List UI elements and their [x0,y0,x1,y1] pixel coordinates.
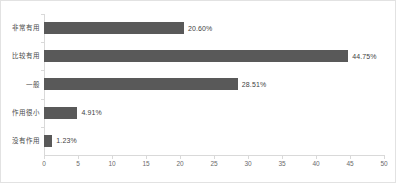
x-axis-tick-label: 0 [42,161,46,168]
bar [44,135,52,147]
category-label: 一般 [3,81,40,88]
x-axis-ticks: 05101520253035404550 [44,156,385,182]
y-axis-tick-mark [41,127,44,128]
bar [44,78,238,90]
x-axis-tick-label: 5 [76,161,80,168]
bar-row: 28.51% [44,70,384,98]
y-axis-tick-mark [41,99,44,100]
bar-row: 20.60% [44,14,384,42]
category-label: 作用很小 [3,109,40,116]
x-axis-tick-mark [78,156,79,159]
x-axis-tick-mark [214,156,215,159]
x-axis-tick-label: 45 [346,161,353,168]
x-axis-tick-mark [180,156,181,159]
y-axis-tick-mark [41,70,44,71]
bar [44,22,184,34]
x-axis-tick-mark [112,156,113,159]
x-axis-tick-mark [146,156,147,159]
x-axis-tick-label: 40 [312,161,319,168]
x-axis-tick-mark [44,156,45,159]
bar-value-label: 20.60% [188,25,212,32]
category-label: 非常有用 [3,25,40,32]
x-axis-tick-label: 20 [176,161,183,168]
category-label: 比较有用 [3,53,40,60]
x-axis-tick-label: 35 [278,161,285,168]
plot-area: 非常有用比较有用一般作用很小没有作用 20.60%44.75%28.51%4.9… [44,14,384,155]
bar-chart-figure: 非常有用比较有用一般作用很小没有作用 20.60%44.75%28.51%4.9… [0,0,396,183]
x-axis-tick-label: 50 [380,161,387,168]
bar [44,107,77,119]
y-axis-tick-mark [41,42,44,43]
bar-row: 1.23% [44,127,384,155]
bar [44,50,348,62]
bar-row: 4.91% [44,99,384,127]
x-axis-tick-mark [384,156,385,159]
y-axis-tick-mark [41,14,44,15]
x-axis-tick-label: 15 [142,161,149,168]
bar-value-label: 28.51% [242,81,266,88]
x-axis-tick-label: 25 [210,161,217,168]
bar-row: 44.75% [44,42,384,70]
x-axis-tick-mark [350,156,351,159]
x-axis-tick-label: 30 [244,161,251,168]
x-axis-tick-mark [282,156,283,159]
x-axis-tick-label: 10 [108,161,115,168]
x-axis-tick-mark [316,156,317,159]
x-axis-tick-mark [248,156,249,159]
category-label: 没有作用 [3,138,40,145]
bar-value-label: 44.75% [352,53,376,60]
bar-value-label: 1.23% [56,137,76,144]
bar-value-label: 4.91% [81,109,101,116]
